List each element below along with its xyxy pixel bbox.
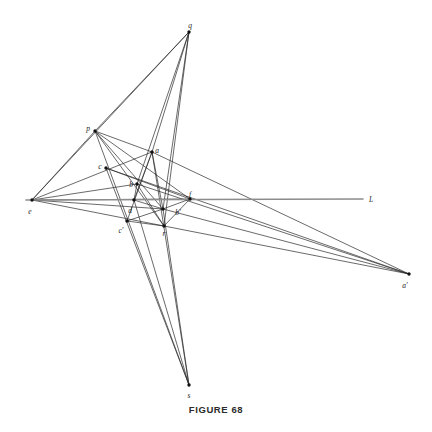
segment-e-b (32, 184, 137, 200)
point-label-b: b (129, 180, 133, 189)
point-d (132, 198, 135, 201)
point-bp (161, 207, 164, 210)
point-r (162, 224, 165, 227)
point-e (30, 198, 33, 201)
point-label-d: d (128, 206, 132, 215)
segment-layer (32, 32, 409, 385)
point-label-s: s (188, 391, 191, 400)
segment-bp-s (163, 209, 189, 385)
label-layer: Lqpacbfedb'c'ra's (28, 21, 408, 400)
point-cp (125, 219, 128, 222)
point-label-c: c (98, 162, 102, 171)
baseline-L (26, 199, 363, 200)
point-label-ap: a' (402, 281, 408, 290)
point-label-q: q (188, 21, 192, 30)
segment-q-b (137, 32, 189, 184)
figure-caption: FIGURE 68 (0, 404, 432, 415)
point-q (187, 30, 190, 33)
segment-e-r (32, 200, 164, 226)
segment-p-e (32, 131, 95, 200)
segment-p-f (95, 131, 190, 199)
baseline-layer (26, 199, 363, 200)
point-label-bp: b' (175, 208, 181, 217)
point-c (104, 166, 107, 169)
point-label-r: r (163, 229, 166, 238)
geometric-construction-diagram: Lqpacbfedb'c'ra's (0, 0, 432, 432)
segment-q-e (32, 32, 189, 200)
point-ap (407, 272, 410, 275)
segment-p-a (95, 131, 152, 152)
point-b (135, 182, 138, 185)
segment-a-ap (152, 152, 409, 274)
segment-e-bp (32, 200, 163, 209)
figure-canvas: Lqpacbfedb'c'ra's FIGURE 68 (0, 0, 432, 432)
baseline-label-L: L (368, 195, 373, 204)
segment-cp-bp (127, 209, 163, 221)
segment-q-a (152, 32, 189, 152)
segment-bp-ap (163, 209, 409, 274)
point-a (150, 150, 153, 153)
point-label-a: a (155, 146, 159, 155)
point-label-p: p (85, 124, 90, 133)
node-layer (30, 30, 410, 386)
point-label-cp: c' (119, 226, 124, 235)
point-label-f: f (189, 190, 192, 199)
point-s (187, 383, 190, 386)
segment-d-s (134, 200, 189, 385)
segment-p-bp (95, 131, 163, 209)
point-label-e: e (28, 207, 32, 216)
segment-cp-r (127, 221, 164, 226)
point-p (93, 129, 96, 132)
